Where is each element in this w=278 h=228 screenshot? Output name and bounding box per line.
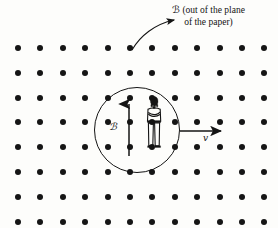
velocity-label: v xyxy=(203,133,208,144)
standing-person-icon xyxy=(148,97,161,148)
observer-figure-layer xyxy=(0,0,278,228)
field-direction-callout-label: ℬ (out of the plane of the paper) xyxy=(172,5,245,28)
magnetic-field-label: ℬ xyxy=(109,121,117,133)
physics-diagram-figure: ℬ (out of the plane of the paper) ℬ v xyxy=(0,0,278,228)
callout-line-1: ℬ (out of the plane xyxy=(172,5,245,17)
callout-line-2: of the paper) xyxy=(172,17,245,29)
